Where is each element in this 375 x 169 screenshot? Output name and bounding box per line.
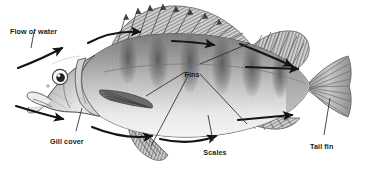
label-gill-cover: Gill cover <box>50 137 84 146</box>
label-scales: Scales <box>203 148 226 157</box>
eye <box>52 69 67 84</box>
label-flow-of-water: Flow of water <box>10 27 57 36</box>
fish-diagram: Flow of waterFinsGill coverScalesTail fi… <box>0 0 375 169</box>
label-fins: Fins <box>184 70 199 79</box>
label-tail-fin: Tail fin <box>310 142 333 151</box>
arrow-snout-upper <box>18 48 62 68</box>
